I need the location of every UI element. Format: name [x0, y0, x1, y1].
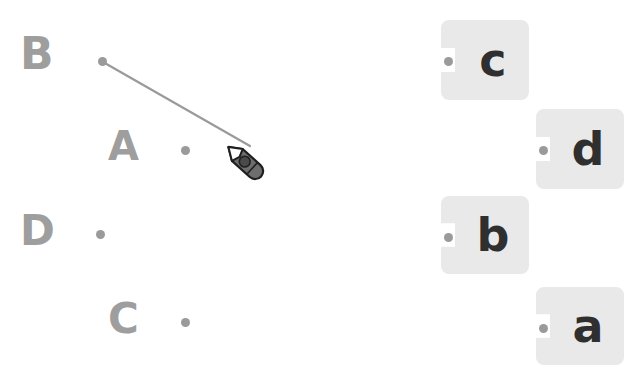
prompt-letter-b[interactable]: B [20, 32, 54, 76]
prompt-dot-b[interactable] [98, 57, 107, 66]
prompt-letter-a[interactable]: A [108, 126, 139, 166]
answer-dot-d[interactable] [539, 146, 548, 155]
exercise-canvas: B A D C c d b a [0, 0, 638, 381]
pencil-icon [221, 138, 267, 184]
prompt-dot-d[interactable] [96, 230, 105, 239]
answer-card-letter: c [441, 20, 529, 100]
answer-dot-a[interactable] [539, 324, 548, 333]
prompt-letter-d[interactable]: D [20, 210, 55, 252]
answer-dot-b[interactable] [444, 233, 453, 242]
answer-card-letter: a [536, 287, 624, 365]
answer-card-d[interactable]: d [536, 109, 624, 189]
prompt-dot-a[interactable] [181, 146, 190, 155]
answer-card-b[interactable]: b [441, 196, 529, 274]
answer-card-letter: b [441, 196, 529, 274]
answer-card-c[interactable]: c [441, 20, 529, 100]
answer-dot-c[interactable] [444, 57, 453, 66]
prompt-letter-c[interactable]: C [108, 298, 139, 340]
prompt-dot-c[interactable] [181, 318, 190, 327]
pencil-cursor[interactable] [221, 138, 267, 184]
answer-card-a[interactable]: a [536, 287, 624, 365]
answer-card-letter: d [536, 109, 624, 189]
